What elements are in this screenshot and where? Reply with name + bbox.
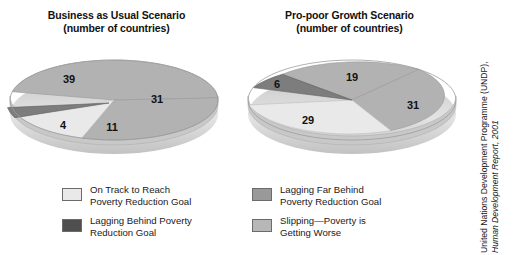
legend-swatch-on-track xyxy=(62,188,82,201)
source-note: United Nations Development Programme (UN… xyxy=(466,0,514,255)
legend-label-slipping: Slipping—Poverty is Getting Worse xyxy=(280,215,366,239)
chart-title-right: Pro-poor Growth Scenario (number of coun… xyxy=(233,9,466,35)
legend-swatch-lagging-behind xyxy=(62,219,82,232)
legend-label-lagging-far-behind: Lagging Far Behind Poverty Reduction Goa… xyxy=(280,184,381,208)
source-note-line1: United Nations Development Programme (UN… xyxy=(479,3,490,253)
legend-label-on-track: On Track to Reach Poverty Reduction Goal xyxy=(90,184,191,208)
chart-title-left-line1: Business as Usual Scenario xyxy=(48,9,185,21)
legend-swatch-slipping xyxy=(252,219,272,232)
legend-swatch-lagging-far-behind xyxy=(252,188,272,201)
pie-left-label-39: 39 xyxy=(63,73,75,85)
pie-left-label-4: 4 xyxy=(60,119,67,131)
pie-chart-right: 19 31 29 6 xyxy=(233,38,466,178)
chart-title-left: Business as Usual Scenario (number of co… xyxy=(0,9,233,35)
chart-title-right-line2: (number of countries) xyxy=(233,22,466,35)
chart-business-as-usual: Business as Usual Scenario (number of co… xyxy=(0,0,233,180)
pie-right-label-6: 6 xyxy=(274,78,280,90)
pie-chart-left: 39 31 11 4 xyxy=(0,38,233,178)
legend-item-lagging-far-behind[interactable]: Lagging Far Behind Poverty Reduction Goa… xyxy=(252,186,447,215)
pie-right-label-19: 19 xyxy=(346,71,358,83)
chart-legend: On Track to Reach Poverty Reduction Goal… xyxy=(0,186,466,248)
pie-left-slice-39 xyxy=(12,60,218,100)
legend-column-2: Lagging Far Behind Poverty Reduction Goa… xyxy=(252,186,447,248)
legend-item-on-track[interactable]: On Track to Reach Poverty Reduction Goal xyxy=(62,186,257,215)
legend-column-1: On Track to Reach Poverty Reduction Goal… xyxy=(62,186,257,248)
chart-title-right-line1: Pro-poor Growth Scenario xyxy=(285,9,414,21)
legend-item-slipping[interactable]: Slipping—Poverty is Getting Worse xyxy=(252,217,447,246)
pie-right-label-29: 29 xyxy=(302,114,314,126)
legend-label-lagging-behind: Lagging Behind Poverty Reduction Goal xyxy=(90,215,192,239)
chart-title-left-line2: (number of countries) xyxy=(0,22,233,35)
figure-pie-charts: Business as Usual Scenario (number of co… xyxy=(0,0,466,255)
pie-left-label-31: 31 xyxy=(151,93,163,105)
pie-right-label-31: 31 xyxy=(407,99,419,111)
pie-wrapper-right: 19 31 29 6 xyxy=(233,38,466,178)
pie-wrapper-left: 39 31 11 4 xyxy=(0,38,233,178)
chart-pro-poor-growth: Pro-poor Growth Scenario (number of coun… xyxy=(233,0,466,180)
source-note-line2: Human Development Report, 2001 xyxy=(490,3,501,253)
pie-left-label-11: 11 xyxy=(106,121,118,133)
legend-item-lagging-behind[interactable]: Lagging Behind Poverty Reduction Goal xyxy=(62,217,257,246)
